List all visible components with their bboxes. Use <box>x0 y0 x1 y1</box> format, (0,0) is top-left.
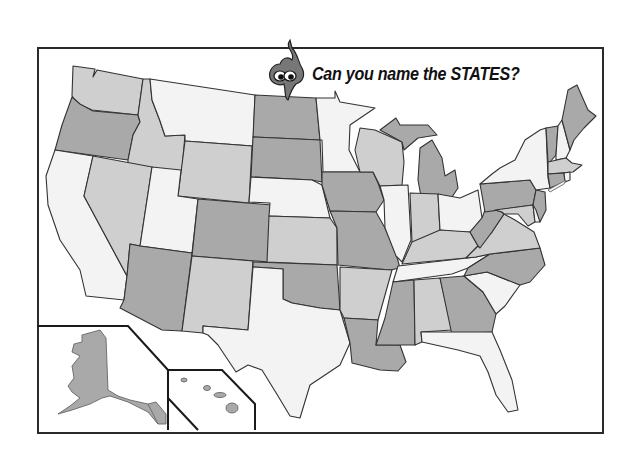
state-arizona[interactable] <box>120 244 192 331</box>
quiz-title: Can you name the STATES? <box>312 64 519 85</box>
state-iowa[interactable] <box>322 172 384 212</box>
state-colorado[interactable] <box>192 199 272 262</box>
state-massachusetts[interactable] <box>548 158 582 174</box>
state-hawaii[interactable] <box>181 378 238 413</box>
state-michigan-lower[interactable] <box>418 140 458 202</box>
state-wyoming[interactable] <box>178 141 252 203</box>
flame-mascot-icon <box>262 38 312 102</box>
state-south-dakota[interactable] <box>251 137 322 182</box>
state-maine[interactable] <box>562 85 596 150</box>
state-arkansas[interactable] <box>340 267 392 320</box>
state-florida[interactable] <box>421 332 518 412</box>
state-montana[interactable] <box>150 79 255 146</box>
state-kansas[interactable] <box>267 216 337 265</box>
state-new-mexico[interactable] <box>182 256 253 333</box>
state-new-york[interactable] <box>480 128 550 190</box>
